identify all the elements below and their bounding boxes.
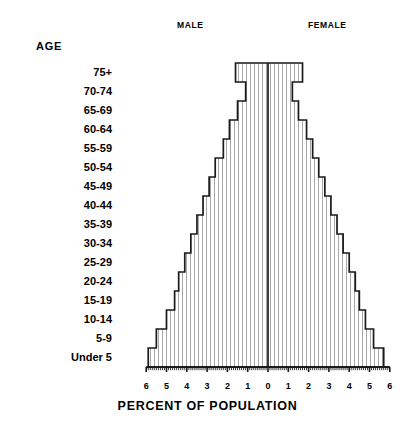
pyramid-bar [215, 158, 268, 177]
pyramid-bar [197, 215, 268, 234]
age-category-labels: 75+70-7465-6960-6455-5950-5445-4940-4435… [20, 64, 112, 376]
age-group-label: 10-14 [20, 314, 112, 325]
pyramid-bar [148, 348, 268, 367]
pyramid-bar [268, 63, 303, 82]
age-group-label: 20-24 [20, 276, 112, 287]
population-pyramid-figure: MALE FEMALE AGE 75+70-7465-6960-6455-595… [0, 0, 415, 437]
pyramid-bar [268, 196, 331, 215]
pyramid-bar [268, 120, 307, 139]
pyramid-bar [175, 291, 268, 310]
age-axis-title: AGE [36, 40, 62, 52]
x-axis-title: PERCENT OF POPULATION [0, 399, 415, 413]
pyramid-bar [268, 291, 359, 310]
x-tick-label: 1 [278, 381, 298, 391]
pyramid-bar [268, 139, 313, 158]
pyramid-bar [268, 329, 374, 348]
pyramid-bar [156, 329, 268, 348]
pyramid-bar [191, 234, 268, 253]
x-tick-label: 5 [157, 381, 177, 391]
age-group-label: 60-64 [20, 124, 112, 135]
x-tick-label: 6 [380, 381, 400, 391]
pyramid-bar [246, 82, 268, 101]
female-series-label: FEMALE [308, 20, 347, 30]
age-group-label: 40-44 [20, 200, 112, 211]
x-tick-label: 2 [299, 381, 319, 391]
age-group-label: 70-74 [20, 86, 112, 97]
pyramid-bar [268, 272, 355, 291]
age-group-label: 65-69 [20, 105, 112, 116]
x-tick-label: 6 [136, 381, 156, 391]
age-group-label: 25-29 [20, 257, 112, 268]
age-group-label: 55-59 [20, 143, 112, 154]
x-tick-label: 4 [339, 381, 359, 391]
pyramid-bar [236, 63, 268, 82]
pyramid-bar [179, 272, 268, 291]
pyramid-bar [268, 215, 337, 234]
pyramid-bar [185, 253, 268, 272]
female-bars-group [268, 63, 384, 367]
pyramid-bar [268, 253, 349, 272]
x-axis-tick-labels: 6543210123456 [126, 381, 410, 395]
age-group-label: 50-54 [20, 162, 112, 173]
age-group-label: 75+ [20, 67, 112, 78]
age-group-label: 30-34 [20, 238, 112, 249]
pyramid-bar [223, 139, 268, 158]
male-bars-group [148, 63, 268, 367]
male-series-label: MALE [177, 20, 203, 30]
pyramid-bar [268, 177, 325, 196]
x-tick-label: 3 [319, 381, 339, 391]
x-tick-label: 3 [197, 381, 217, 391]
pyramid-bar [203, 196, 268, 215]
x-axis-tick-marks [146, 367, 390, 372]
pyramid-bar [167, 310, 269, 329]
age-group-label: Under 5 [20, 352, 112, 363]
pyramid-bar [268, 158, 319, 177]
x-tick-label: 1 [238, 381, 258, 391]
x-tick-label: 2 [217, 381, 237, 391]
x-tick-label: 4 [177, 381, 197, 391]
x-tick-label: 0 [258, 381, 278, 391]
pyramid-svg [126, 62, 410, 378]
pyramid-bar [268, 310, 365, 329]
age-group-label: 45-49 [20, 181, 112, 192]
pyramid-bar [268, 234, 343, 253]
pyramid-bar [268, 82, 292, 101]
x-tick-label: 5 [360, 381, 380, 391]
pyramid-bar [229, 120, 268, 139]
pyramid-bar [209, 177, 268, 196]
pyramid-plot-area [126, 62, 410, 378]
pyramid-bar [268, 101, 298, 120]
pyramid-bar [238, 101, 268, 120]
age-group-label: 15-19 [20, 295, 112, 306]
pyramid-bar [268, 348, 384, 367]
age-group-label: 5-9 [20, 333, 112, 344]
age-group-label: 35-39 [20, 219, 112, 230]
